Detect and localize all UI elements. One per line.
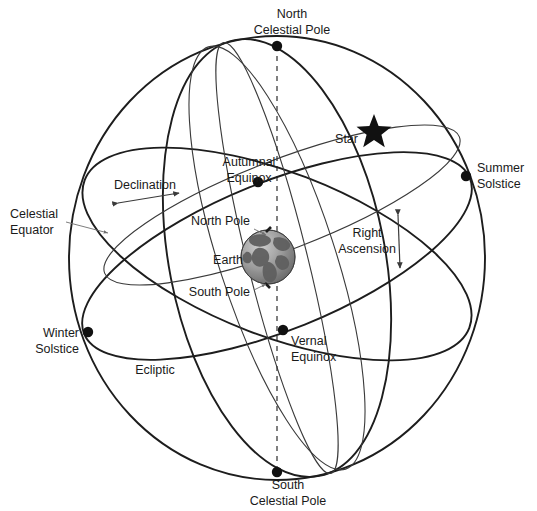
label-right-ascension-line1: Right bbox=[352, 226, 382, 240]
label-south-celestial-pole-line2: Celestial Pole bbox=[250, 494, 326, 508]
star-icon bbox=[357, 114, 392, 147]
label-declination: Declination bbox=[114, 178, 176, 192]
node-dot-south-celestial-pole bbox=[272, 467, 282, 477]
label-north-celestial-pole-line1: North bbox=[277, 7, 308, 21]
label-celestial-equator-line2: Equator bbox=[10, 223, 54, 237]
label-south-pole: South Pole bbox=[189, 285, 250, 299]
declination-measure-arrow bbox=[118, 193, 179, 203]
label-summer-solstice-line2: Solstice bbox=[477, 177, 521, 191]
celestial-sphere-diagram: North Celestial Pole South Celestial Pol… bbox=[0, 0, 537, 511]
earth-globe-icon bbox=[241, 230, 295, 284]
label-summer-solstice-line1: Summer bbox=[477, 161, 524, 175]
label-winter-solstice-line1: Winter bbox=[43, 326, 79, 340]
label-winter-solstice-line2: Solstice bbox=[35, 342, 79, 356]
right-ascension-measure-arrow bbox=[398, 215, 400, 268]
label-ecliptic: Ecliptic bbox=[135, 363, 175, 377]
label-south-celestial-pole-line1: South bbox=[272, 478, 305, 492]
leader-south-pole bbox=[254, 284, 266, 290]
celestial-sphere-canvas: North Celestial Pole South Celestial Pol… bbox=[0, 0, 537, 511]
node-dot-north-celestial-pole bbox=[272, 41, 282, 51]
label-celestial-equator-line1: Celestial bbox=[10, 207, 58, 221]
label-north-pole: North Pole bbox=[191, 214, 250, 228]
label-earth: Earth bbox=[213, 253, 243, 267]
node-dot-vernal-equinox bbox=[278, 325, 288, 335]
label-autumnal-equinox-line1: Autumnal bbox=[223, 155, 276, 169]
label-autumnal-equinox-line2: Equinox bbox=[226, 171, 272, 185]
label-vernal-equinox-line2: Equinox bbox=[291, 350, 337, 364]
label-north-celestial-pole-line2: Celestial Pole bbox=[254, 23, 330, 37]
declination-parallel-circle bbox=[88, 95, 475, 315]
node-dot-winter-solstice bbox=[83, 327, 93, 337]
label-right-ascension-line2: Ascension bbox=[338, 242, 396, 256]
leader-celestial-equator bbox=[66, 222, 108, 233]
label-vernal-equinox-line1: Vernal bbox=[291, 334, 326, 348]
node-dot-summer-solstice bbox=[461, 171, 471, 181]
label-star: Star bbox=[335, 132, 358, 146]
